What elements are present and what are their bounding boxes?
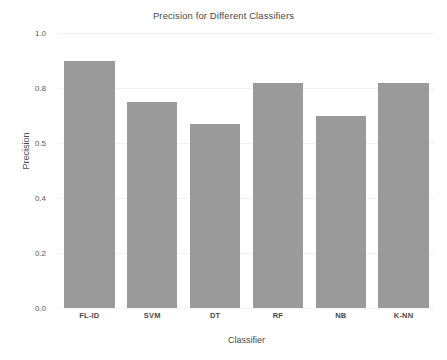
bar bbox=[378, 83, 428, 309]
x-tick-label: SVM bbox=[144, 311, 161, 320]
x-tick-label: DT bbox=[210, 311, 220, 320]
x-tick-label: RF bbox=[273, 311, 283, 320]
x-axis-tick-labels: FL-IDSVMDTRFNBK-NN bbox=[58, 311, 435, 327]
y-tick-label: 1.0 bbox=[35, 29, 46, 38]
y-tick-label: 0.0 bbox=[35, 304, 46, 313]
bar bbox=[190, 124, 240, 308]
chart-figure: Precision for Different Classifiers Prec… bbox=[0, 0, 447, 360]
bar bbox=[127, 102, 177, 308]
bar-series bbox=[58, 33, 435, 308]
y-tick-label: 0.4 bbox=[35, 194, 46, 203]
x-tick-label: FL-ID bbox=[79, 311, 99, 320]
bar bbox=[64, 61, 114, 309]
x-axis-label: Classifier bbox=[58, 335, 435, 345]
bar bbox=[316, 116, 366, 309]
y-tick-label: 0.2 bbox=[35, 249, 46, 258]
gridline bbox=[58, 308, 435, 309]
bar bbox=[253, 83, 303, 309]
chart-title: Precision for Different Classifiers bbox=[0, 10, 447, 21]
plot-area bbox=[58, 33, 435, 308]
y-tick-label: 0.5 bbox=[35, 139, 46, 148]
x-tick-label: NB bbox=[335, 311, 346, 320]
x-tick-label: K-NN bbox=[394, 311, 414, 320]
y-axis-tick-labels: 1.00.80.50.40.20.0 bbox=[0, 33, 52, 308]
y-tick-label: 0.8 bbox=[35, 84, 46, 93]
